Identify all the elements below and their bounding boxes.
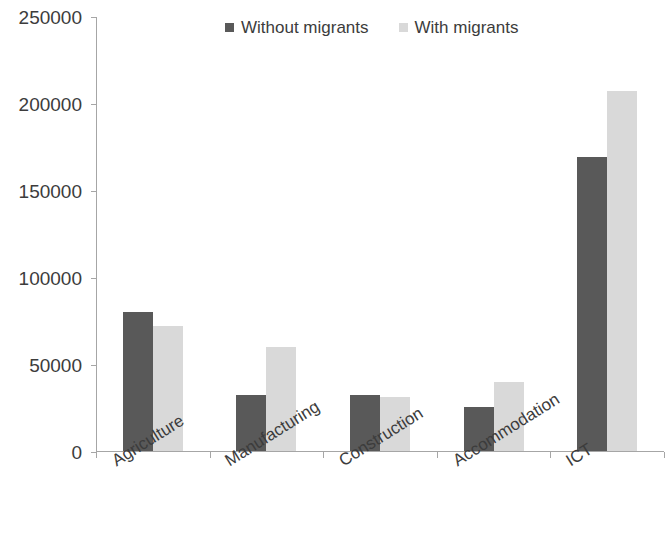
y-axis-tick-label: 250000	[19, 8, 82, 27]
y-axis-tick-label: 200000	[19, 95, 82, 114]
y-axis-line	[96, 17, 97, 452]
bar-ict-with-migrants	[607, 91, 637, 451]
y-axis-tick	[91, 104, 97, 105]
bar-ict-without-migrants	[577, 157, 607, 451]
y-axis-tick-label: 150000	[19, 182, 82, 201]
y-axis-tick	[91, 365, 97, 366]
y-axis-tick-label: 50000	[29, 356, 82, 375]
x-axis-category-labels: AgricultureManufacturingConstructionAcco…	[96, 455, 670, 550]
y-axis-tick	[91, 17, 97, 18]
bar-chart: Without migrants With migrants 050000100…	[0, 0, 670, 552]
y-axis-tick-label: 100000	[19, 269, 82, 288]
y-axis-tick-label: 0	[71, 443, 82, 462]
plot-area	[96, 17, 664, 452]
y-axis-tick	[91, 278, 97, 279]
y-axis-tick-labels: 050000100000150000200000250000	[0, 0, 90, 469]
y-axis-tick	[91, 191, 97, 192]
